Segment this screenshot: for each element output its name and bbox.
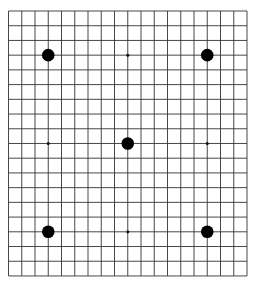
black-stone-icon[interactable] [121,137,134,150]
go-board[interactable] [0,0,253,283]
black-stone-icon[interactable] [42,226,55,239]
black-stone-icon[interactable] [201,226,214,239]
star-point-icon [126,230,129,233]
star-point-icon [206,142,209,145]
go-board-canvas[interactable] [0,0,253,283]
star-point-icon [126,54,129,57]
star-point-icon [47,142,50,145]
black-stone-icon[interactable] [201,49,214,62]
black-stone-icon[interactable] [42,49,55,62]
